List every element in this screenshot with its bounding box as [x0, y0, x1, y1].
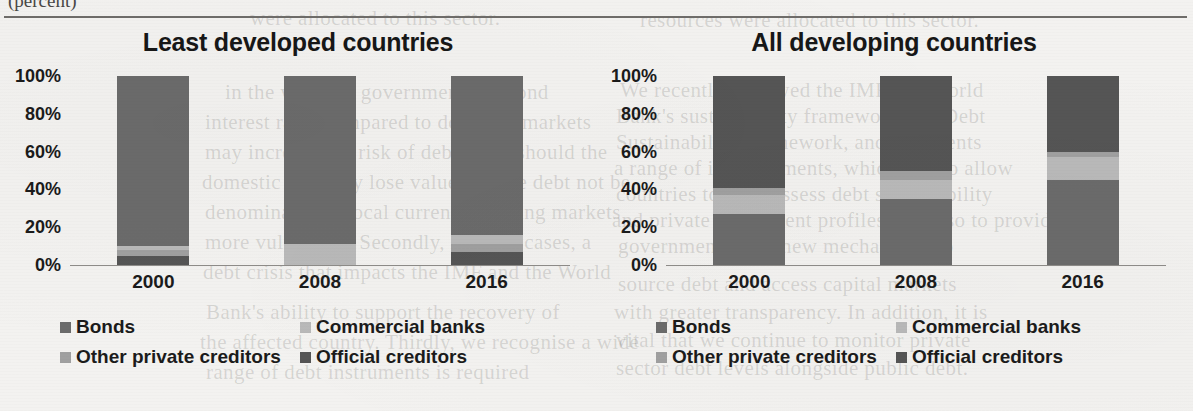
- chart-least-developed-countries: Least developed countries 0%20%40%60%80%…: [0, 20, 596, 411]
- bar-segment-commercial-banks[interactable]: [284, 244, 356, 265]
- x-axis-tick-label: 2008: [895, 271, 937, 293]
- legend-item-official-creditors[interactable]: Official creditors: [300, 346, 540, 368]
- legend-swatch-icon: [896, 322, 907, 333]
- bar-segment-bonds[interactable]: [117, 76, 189, 246]
- chart-legend: BondsCommercial banksOther private credi…: [60, 316, 540, 376]
- bar-segment-commercial-banks[interactable]: [880, 180, 952, 199]
- chart-legend: BondsCommercial banksOther private credi…: [656, 316, 1136, 376]
- y-axis-tick-label: 0%: [35, 255, 61, 276]
- x-axis-line: [70, 265, 570, 266]
- legend-item-other-private-creditors[interactable]: Other private creditors: [60, 346, 300, 368]
- bar-segment-bonds[interactable]: [451, 76, 523, 235]
- chart-title: Least developed countries: [0, 28, 596, 57]
- bar-segment-other-private-creditors[interactable]: [451, 244, 523, 252]
- legend-swatch-icon: [60, 352, 71, 363]
- bar-segment-other-private-creditors[interactable]: [880, 171, 952, 180]
- legend-item-commercial-banks[interactable]: Commercial banks: [300, 316, 540, 338]
- y-axis-tick-label: 0%: [631, 255, 657, 276]
- legend-swatch-icon: [656, 352, 667, 363]
- bar-segment-official-creditors[interactable]: [713, 76, 785, 188]
- bar-segment-other-private-creditors[interactable]: [713, 188, 785, 196]
- legend-item-label: Commercial banks: [316, 316, 485, 338]
- legend-swatch-icon: [896, 352, 907, 363]
- legend-item-label: Commercial banks: [912, 316, 1081, 338]
- x-axis-tick-label: 2000: [132, 271, 174, 293]
- x-axis-tick-label: 2000: [728, 271, 770, 293]
- legend-swatch-icon: [656, 322, 667, 333]
- y-axis-tick-label: 60%: [621, 141, 657, 162]
- x-axis-tick-label: 2016: [466, 271, 508, 293]
- bar-segment-commercial-banks[interactable]: [1047, 157, 1119, 180]
- legend-item-bonds[interactable]: Bonds: [60, 316, 300, 338]
- bar-column[interactable]: 2016: [451, 76, 523, 265]
- bars-group: 200020082016: [70, 76, 570, 265]
- x-axis-tick-label: 2008: [299, 271, 341, 293]
- bar-column[interactable]: 2008: [880, 76, 952, 265]
- y-axis-tick-label: 20%: [621, 217, 657, 238]
- bar-segment-official-creditors[interactable]: [880, 76, 952, 171]
- bar-column[interactable]: 2016: [1047, 76, 1119, 265]
- chart-title: All developing countries: [596, 28, 1192, 57]
- chart-all-developing-countries: All developing countries 0%20%40%60%80%1…: [596, 20, 1192, 411]
- bar-segment-bonds[interactable]: [713, 214, 785, 265]
- bar-segment-official-creditors[interactable]: [451, 252, 523, 265]
- y-axis-tick-label: 80%: [25, 103, 61, 124]
- page-horizontal-rule: [4, 16, 1187, 18]
- legend-item-label: Other private creditors: [76, 346, 281, 368]
- bar-segment-commercial-banks[interactable]: [451, 235, 523, 244]
- bar-segment-commercial-banks[interactable]: [713, 195, 785, 214]
- y-axis-tick-label: 60%: [25, 141, 61, 162]
- legend-item-bonds[interactable]: Bonds: [656, 316, 896, 338]
- bars-group: 200020082016: [666, 76, 1166, 265]
- bar-segment-bonds[interactable]: [880, 199, 952, 265]
- y-axis-tick-label: 40%: [25, 179, 61, 200]
- y-axis-tick-label: 100%: [611, 66, 657, 87]
- y-axis-tick-label: 20%: [25, 217, 61, 238]
- legend-item-commercial-banks[interactable]: Commercial banks: [896, 316, 1136, 338]
- legend-item-label: Bonds: [672, 316, 731, 338]
- legend-item-label: Official creditors: [912, 346, 1063, 368]
- bar-segment-bonds[interactable]: [1047, 180, 1119, 265]
- plot-area: 0%20%40%60%80%100% 200020082016: [666, 76, 1166, 265]
- x-axis-line: [666, 265, 1166, 266]
- legend-swatch-icon: [300, 352, 311, 363]
- legend-item-label: Other private creditors: [672, 346, 877, 368]
- plot-area: 0%20%40%60%80%100% 200020082016: [70, 76, 570, 265]
- bar-segment-official-creditors[interactable]: [117, 256, 189, 265]
- legend-swatch-icon: [300, 322, 311, 333]
- legend-item-official-creditors[interactable]: Official creditors: [896, 346, 1136, 368]
- y-axis-tick-label: 80%: [621, 103, 657, 124]
- x-axis-tick-label: 2016: [1062, 271, 1104, 293]
- y-axis-tick-label: 40%: [621, 179, 657, 200]
- bar-segment-official-creditors[interactable]: [1047, 76, 1119, 152]
- legend-item-label: Official creditors: [316, 346, 467, 368]
- legend-item-other-private-creditors[interactable]: Other private creditors: [656, 346, 896, 368]
- bar-segment-bonds[interactable]: [284, 76, 356, 244]
- bar-column[interactable]: 2000: [713, 76, 785, 265]
- legend-swatch-icon: [60, 322, 71, 333]
- legend-item-label: Bonds: [76, 316, 135, 338]
- clipped-top-text: (percent): [8, 0, 77, 12]
- y-axis-tick-label: 100%: [15, 66, 61, 87]
- charts-container: Least developed countries 0%20%40%60%80%…: [0, 20, 1193, 411]
- bar-column[interactable]: 2000: [117, 76, 189, 265]
- bar-column[interactable]: 2008: [284, 76, 356, 265]
